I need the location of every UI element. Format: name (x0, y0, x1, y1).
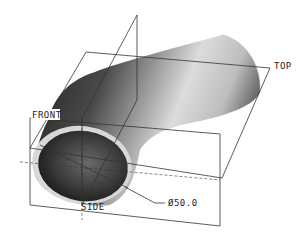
datum-label-top[interactable]: TOP (274, 61, 292, 71)
dimension-leader (125, 187, 165, 203)
cad-viewport[interactable]: TOP FRONT SIDE Ø50.0 (0, 0, 307, 233)
datum-label-side[interactable]: SIDE (81, 202, 105, 212)
dimension-diameter[interactable]: Ø50.0 (168, 198, 198, 208)
model-canvas[interactable]: TOP FRONT SIDE Ø50.0 (0, 0, 307, 233)
datum-label-front[interactable]: FRONT (32, 110, 62, 120)
